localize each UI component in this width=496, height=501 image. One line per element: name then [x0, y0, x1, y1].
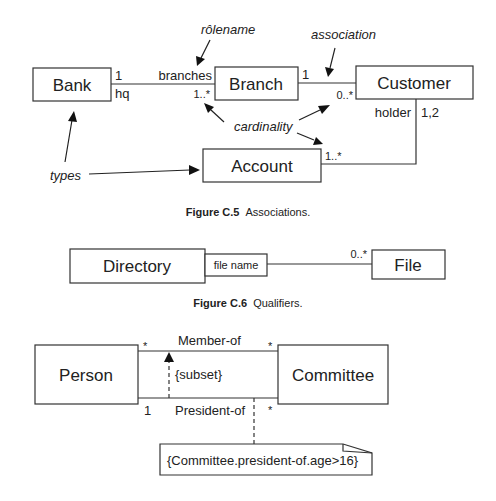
customer-multiplicity: 0..* — [336, 89, 353, 101]
class-customer[interactable]: Customer — [356, 66, 473, 99]
figure-c7: Person Committee Member-of President-of … — [35, 333, 388, 475]
cardinality-arrow-branch — [204, 103, 224, 122]
holder-multiplicity: 1,2 — [421, 105, 439, 120]
figure-c6: Directory file name File 0..* Figure C.6… — [70, 248, 445, 309]
figure-c5: Bank Branch Customer Account 1 hq branch… — [33, 22, 473, 218]
types-arrow-bank — [65, 111, 77, 162]
uml-diagrams: Bank Branch Customer Account 1 hq branch… — [0, 0, 496, 501]
qualifier-label: file name — [214, 259, 259, 271]
member-committee-multiplicity: * — [268, 340, 273, 352]
president-person-multiplicity: 1 — [144, 403, 151, 418]
types-arrow-account — [89, 165, 200, 175]
caption-number: Figure C.6 — [193, 297, 247, 309]
subset-label: {subset} — [175, 367, 223, 382]
member-person-multiplicity: * — [143, 340, 148, 352]
class-name: Customer — [377, 74, 451, 93]
branch-multiplicity: 1..* — [193, 88, 210, 100]
class-branch[interactable]: Branch — [215, 67, 298, 100]
class-name: Directory — [103, 257, 172, 276]
caption-text: Associations. — [245, 206, 310, 218]
subset-dependency — [164, 352, 174, 398]
annotation-association: association — [311, 27, 376, 42]
bank-role: hq — [115, 86, 129, 101]
member-of-label: Member-of — [178, 333, 241, 348]
figure-c5-caption: Figure C.5Associations. — [186, 206, 311, 218]
constraint-text: {Committee.president-of.age>16} — [167, 453, 359, 468]
president-of-label: President-of — [175, 403, 245, 418]
class-name: Bank — [53, 76, 92, 95]
constraint-note[interactable]: {Committee.president-of.age>16} — [160, 444, 372, 475]
class-name: Committee — [292, 366, 374, 385]
president-committee-multiplicity: * — [268, 404, 273, 416]
class-name: Account — [231, 157, 293, 176]
class-name: Branch — [229, 75, 283, 94]
class-name: File — [394, 256, 421, 275]
cardinality-arrow-customer — [299, 105, 330, 120]
figure-c6-caption: Figure C.6Qualifiers. — [193, 297, 302, 309]
account-multiplicity: 1..* — [325, 150, 342, 162]
class-committee[interactable]: Committee — [278, 345, 388, 404]
class-account[interactable]: Account — [203, 149, 321, 182]
annotation-cardinality: cardinality — [234, 119, 294, 134]
class-name: Person — [59, 366, 113, 385]
rolename-arrow — [196, 40, 210, 66]
class-directory[interactable]: Directory — [70, 249, 205, 283]
file-multiplicity: 0..* — [350, 248, 367, 260]
class-file[interactable]: File — [372, 250, 445, 279]
branch-side-multiplicity: 1 — [302, 67, 309, 82]
bank-multiplicity: 1 — [115, 68, 122, 83]
branch-role: branches — [159, 68, 213, 83]
class-bank[interactable]: Bank — [33, 68, 111, 101]
caption-number: Figure C.5 — [186, 206, 240, 218]
cardinality-arrow-account — [297, 133, 323, 145]
holder-role: holder — [375, 105, 412, 120]
association-arrow — [325, 48, 335, 77]
caption-text: Qualifiers. — [253, 297, 303, 309]
annotation-types: types — [50, 168, 82, 183]
annotation-rolename: rôlename — [201, 22, 255, 37]
qualifier-file-name[interactable]: file name — [205, 254, 267, 276]
class-person[interactable]: Person — [35, 345, 138, 404]
